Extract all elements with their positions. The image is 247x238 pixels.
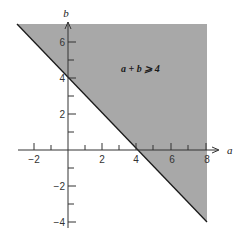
x-tick-label: −2 [28,154,40,165]
x-axis-label: a [227,144,233,156]
y-axis-label: b [63,7,69,19]
x-tick-label: 6 [169,154,175,165]
y-tick-label: −2 [54,181,66,192]
inequality-annotation: a + b ⩾ 4 [121,63,160,74]
y-tick-label: 2 [59,109,65,120]
y-tick-label: 4 [59,73,65,84]
y-tick-label: 6 [59,37,65,48]
x-tick-label: 2 [99,154,105,165]
inequality-plot: −2 2 4 6 8 6 4 2 −2 −4 a b a + b ⩾ 4 [0,0,247,238]
y-tick-label: −4 [54,217,66,228]
x-tick-label: 8 [204,154,210,165]
x-tick-label: 4 [133,154,139,165]
